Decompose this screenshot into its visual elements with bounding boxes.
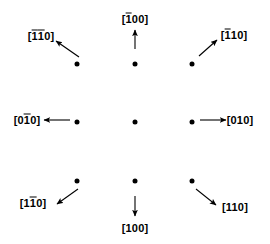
index-label-top-center: [100] [122, 14, 149, 25]
index-label-top-right: [110] [221, 30, 248, 41]
spot-bottom-left [75, 179, 80, 184]
spot-bottom-right [190, 179, 195, 184]
arrow-bottom-right [196, 189, 216, 205]
index-label-bottom-right: [110] [222, 202, 248, 213]
index-label-top-left: [110] [28, 31, 55, 42]
spot-center [133, 120, 138, 125]
index-label-bottom-center: [100] [122, 223, 149, 234]
diffraction-pattern-figure: [110][100][110][010][010][110][100][110] [0, 0, 270, 244]
arrow-top-right [199, 40, 217, 56]
index-label-middle-right: [010] [227, 115, 254, 126]
spot-top-right [190, 62, 195, 67]
spot-top-center [133, 62, 138, 67]
arrow-bottom-left [57, 189, 78, 204]
spot-bottom-center [133, 179, 138, 184]
index-label-bottom-left: [110] [20, 198, 47, 209]
spot-middle-left [75, 120, 80, 125]
arrow-top-left [56, 41, 79, 57]
index-label-middle-left: [010] [14, 115, 41, 126]
spot-top-left [75, 62, 80, 67]
spot-middle-right [190, 120, 195, 125]
